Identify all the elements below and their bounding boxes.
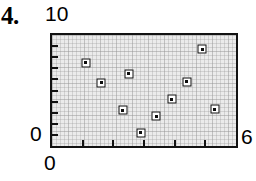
x-axis-tick (174, 140, 176, 146)
data-point-marker (118, 106, 127, 115)
y-axis-max-label: 10 (45, 3, 68, 24)
y-axis-min-label: 0 (30, 123, 42, 144)
y-axis-tick (52, 134, 58, 136)
y-axis-tick (52, 90, 58, 92)
data-point-marker (124, 69, 133, 78)
data-point-marker (81, 58, 90, 67)
x-axis-tick (143, 140, 145, 146)
x-axis-min-label: 0 (44, 152, 56, 173)
y-axis-tick (52, 123, 58, 125)
x-axis-tick (204, 140, 206, 146)
plot-area (50, 33, 238, 148)
data-point-marker (182, 77, 191, 86)
problem-number-label: 4. (1, 3, 19, 28)
scatter-plot-figure: 4. 10 0 0 6 (0, 0, 256, 181)
data-point-marker (136, 128, 145, 137)
data-point-marker (210, 105, 219, 114)
x-axis-tick (82, 140, 84, 146)
y-axis-tick (52, 45, 58, 47)
data-point-marker (198, 45, 207, 54)
x-axis-tick (112, 140, 114, 146)
y-axis-tick (52, 101, 58, 103)
y-axis-tick (52, 112, 58, 114)
data-point-marker (97, 78, 106, 87)
data-point-marker (152, 112, 161, 121)
y-axis-tick (52, 78, 58, 80)
data-point-marker (167, 95, 176, 104)
x-axis-max-label: 6 (241, 126, 253, 147)
y-axis-tick (52, 56, 58, 58)
y-axis-tick (52, 67, 58, 69)
